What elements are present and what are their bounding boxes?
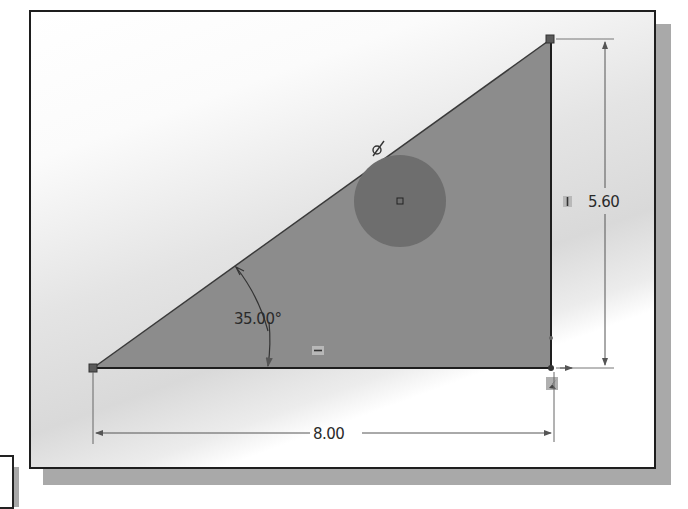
tangent-relation-icon[interactable] <box>373 141 384 156</box>
vertical-relation-icon[interactable] <box>563 196 572 207</box>
horizontal-relation-icon[interactable] <box>312 346 324 355</box>
angle-dimension-value[interactable]: 35.00° <box>234 310 281 328</box>
fixed-relation-icon[interactable] <box>546 377 558 390</box>
width-dimension-value[interactable]: 8.00 <box>313 425 344 443</box>
circle-feature[interactable] <box>354 155 446 247</box>
vertex-top[interactable] <box>546 35 554 43</box>
vertex-bottom-right[interactable] <box>548 365 554 371</box>
width-dimension[interactable]: 8.00 <box>93 372 554 444</box>
vertex-left[interactable] <box>89 364 97 372</box>
height-dimension-value[interactable]: 5.60 <box>588 193 619 211</box>
midpoint-marker <box>549 336 553 340</box>
